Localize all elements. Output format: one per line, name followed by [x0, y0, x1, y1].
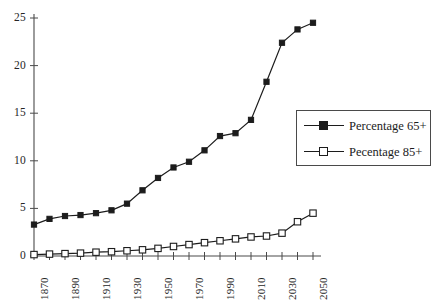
x-axis-tick-label: 1890 [70, 277, 81, 300]
legend-marker-hollow-square-icon [304, 145, 344, 159]
x-axis-tick-label: 1910 [101, 277, 112, 300]
x-axis-tick-label: 2050 [318, 277, 329, 300]
chart-legend: Percentage 65+ Pecentage 85+ [296, 110, 431, 166]
x-axis-tick-label: 2030 [287, 277, 298, 300]
x-axis-tick-label: 1970 [194, 277, 205, 300]
y-axis-tick-label: 10 [4, 155, 26, 167]
y-axis-tick-label: 25 [4, 12, 26, 24]
y-axis-tick-label: 0 [4, 250, 26, 262]
y-axis-tick-label: 15 [4, 107, 26, 119]
y-axis-tick-label: 5 [4, 202, 26, 214]
legend-item-percentage-85: Pecentage 85+ [297, 140, 430, 164]
legend-label-percentage-85: Pecentage 85+ [349, 146, 422, 159]
legend-label-percentage-65: Percentage 65+ [349, 120, 427, 133]
x-axis-tick-label: 1870 [39, 277, 50, 300]
legend-marker-filled-square-icon [304, 119, 344, 133]
x-axis-tick-label: 1950 [163, 277, 174, 300]
line-chart: 0510152025 18701890191019301950197019902… [0, 0, 438, 307]
y-axis-tick-label: 20 [4, 60, 26, 72]
x-axis-tick-label: 1990 [225, 277, 236, 300]
legend-item-percentage-65: Percentage 65+ [297, 114, 430, 138]
x-axis-tick-label: 1930 [132, 277, 143, 300]
x-axis-tick-label: 2010 [256, 277, 267, 300]
